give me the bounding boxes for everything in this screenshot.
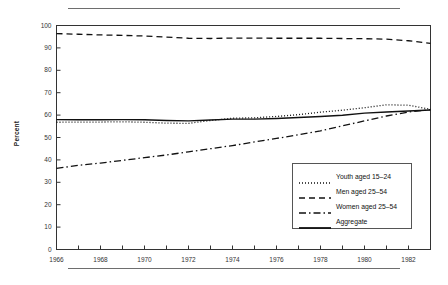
legend-item: Men aged 25–54 [299, 184, 387, 199]
legend-label: Aggregate [336, 218, 367, 225]
legend-swatch-dashed-icon [299, 188, 331, 196]
series-line-1 [57, 34, 431, 44]
legend-label: Men aged 25–54 [336, 188, 387, 195]
chart-figure: Percent 0102030405060708090100 196619681… [0, 0, 448, 285]
legend-item: Youth aged 15–24 [299, 169, 391, 184]
chart-legend: Youth aged 15–24Men aged 25–54Women aged… [292, 163, 412, 229]
legend-label: Women aged 25–54 [336, 203, 397, 210]
data-series-group [57, 34, 431, 169]
legend-swatch-dash-dot-icon [299, 203, 331, 211]
legend-label: Youth aged 15–24 [336, 173, 391, 180]
series-line-0 [57, 105, 431, 124]
plot-area [0, 0, 448, 285]
legend-item: Aggregate [299, 214, 367, 229]
legend-swatch-dotted-icon [299, 173, 331, 181]
legend-swatch-solid-icon [299, 218, 331, 226]
legend-item: Women aged 25–54 [299, 199, 397, 214]
